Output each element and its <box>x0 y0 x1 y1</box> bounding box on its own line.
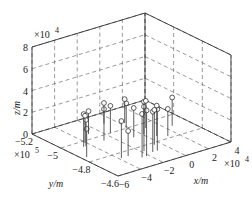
z-tick-label: 6 <box>23 64 28 75</box>
z-axis-label: z/m <box>11 101 22 116</box>
x-tick-label: −6 <box>119 179 130 190</box>
floor-grid-x <box>77 120 163 162</box>
stem-marker <box>119 119 124 124</box>
stem <box>165 107 170 137</box>
stem <box>126 129 131 156</box>
z-tick-label: 2 <box>23 107 28 118</box>
x-multiplier: ×10 4 <box>224 155 249 169</box>
x-tick-label: 0 <box>189 159 194 170</box>
x-tick-label: −2 <box>164 165 175 176</box>
svg-text:×10: ×10 <box>224 158 240 169</box>
stem-marker <box>86 109 91 114</box>
stem-marker <box>122 97 127 102</box>
stem-marker <box>108 103 113 108</box>
stem <box>155 107 160 151</box>
stem-marker <box>165 107 170 112</box>
svg-text:5: 5 <box>35 146 39 155</box>
stem-marker <box>126 129 131 134</box>
data-stems <box>81 95 174 158</box>
stem-marker <box>102 101 107 106</box>
wall-grid-zy <box>145 57 231 99</box>
z-tick-label: 8 <box>23 42 28 53</box>
z-multiplier: ×10 4 <box>34 26 59 40</box>
y-tick-label: −4.8 <box>72 164 90 175</box>
z-tick-label: 4 <box>23 86 28 97</box>
x-tick-label: −4 <box>141 172 152 183</box>
y-tick-label: −5.2 <box>15 136 33 147</box>
wall-grid-zx <box>32 57 145 91</box>
stem-marker <box>143 98 148 103</box>
y-tick-label: −4.6 <box>101 178 119 189</box>
stem-marker <box>170 95 175 100</box>
svg-text:4: 4 <box>55 26 59 35</box>
y-tick-label: −5 <box>47 150 58 161</box>
x-tick-label: 4 <box>235 145 240 156</box>
svg-text:×10: ×10 <box>34 29 50 40</box>
floor-grid-x <box>100 114 186 156</box>
wall-grid-zy <box>145 78 231 120</box>
stem <box>131 106 136 138</box>
top-back-right <box>145 13 231 55</box>
tick-labels: 02468−4.6−4.8−5−5.2−6−4−2024 <box>15 42 240 190</box>
grid-lines <box>32 13 231 176</box>
stem-marker <box>131 106 136 111</box>
wall-grid-zy <box>145 35 231 77</box>
wall-grid-zx <box>32 78 145 112</box>
floor-grid-x <box>122 107 208 149</box>
y-axis-label: y/m <box>48 178 63 189</box>
svg-text:×10: ×10 <box>14 149 30 160</box>
svg-text:4: 4 <box>245 155 249 164</box>
stem3-plot: 02468−4.6−4.8−5−5.2−6−4−2024 z/m y/m x/m… <box>0 0 252 197</box>
x-axis-label: x/m <box>193 175 208 186</box>
axes-box <box>32 13 231 176</box>
y-multiplier: ×10 5 <box>14 146 39 160</box>
stem <box>144 108 149 156</box>
x-tick-label: 2 <box>212 152 217 163</box>
stem-marker <box>83 113 88 118</box>
stem <box>84 118 89 147</box>
stem-marker <box>154 103 159 108</box>
floor-grid-y <box>89 128 202 162</box>
